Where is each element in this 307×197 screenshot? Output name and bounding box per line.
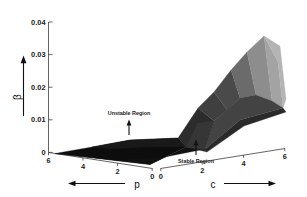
c-tick-label-6: 6 xyxy=(283,152,287,161)
y-tick-label-0.03: 0.03 xyxy=(31,50,45,59)
unstable-region-arrow xyxy=(127,120,132,136)
y-tick-label-0: 0 xyxy=(41,148,45,157)
y-tick-label-0.02: 0.02 xyxy=(31,83,45,92)
y-tick-label-0.04: 0.04 xyxy=(31,18,46,27)
surface-plot: 0.04 0.03 0.02 0.01 0 β 6 4 xyxy=(0,0,307,197)
c-tick-label-0: 0 xyxy=(159,172,163,181)
c-axis-name-group: c xyxy=(211,179,277,190)
surface-mesh xyxy=(55,36,286,165)
y-axis-group: 0.04 0.03 0.02 0.01 0 β xyxy=(12,18,53,157)
y-axis-arrow xyxy=(21,56,27,117)
p-tick-label-0: 0 xyxy=(150,172,154,181)
stable-region-label: Stable Region xyxy=(178,158,214,164)
p-tick-label-2: 2 xyxy=(116,167,120,176)
p-axis-label: p xyxy=(134,179,140,190)
y-tick-label-0.01: 0.01 xyxy=(31,115,45,124)
p-tick-label-4: 4 xyxy=(81,162,86,171)
c-tick-label-4: 4 xyxy=(241,159,246,168)
c-axis-arrow xyxy=(224,181,276,186)
p-axis-name-group: p xyxy=(68,179,140,190)
y-axis-label: β xyxy=(12,94,23,100)
annotation-unstable: Unstable Region xyxy=(108,110,151,135)
p-tick-label-6: 6 xyxy=(46,156,50,165)
figure-canvas: 0.04 0.03 0.02 0.01 0 β 6 4 xyxy=(0,0,307,197)
unstable-region-label: Unstable Region xyxy=(108,110,151,116)
c-axis-label: c xyxy=(211,179,216,190)
p-axis-arrow xyxy=(68,181,125,186)
c-tick-label-2: 2 xyxy=(200,166,204,175)
